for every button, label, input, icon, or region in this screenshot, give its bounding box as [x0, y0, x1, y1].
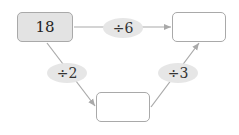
operation-top-label: ÷6 [113, 20, 134, 36]
operation-top: ÷6 [103, 18, 143, 38]
start-value: 18 [35, 18, 54, 36]
operation-left: ÷2 [47, 63, 87, 83]
result-box-top[interactable] [172, 12, 226, 42]
operation-right-label: ÷3 [168, 65, 189, 81]
start-box: 18 [17, 12, 73, 42]
operation-left-label: ÷2 [57, 65, 78, 81]
result-box-bottom[interactable] [96, 92, 150, 122]
operation-right: ÷3 [158, 63, 198, 83]
